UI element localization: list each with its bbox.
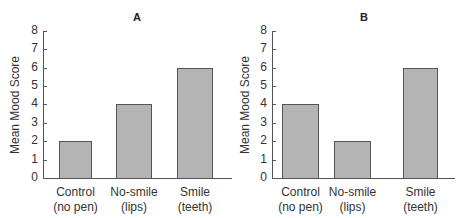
bar bbox=[403, 68, 438, 179]
x-category-label: Smile(teeth) bbox=[386, 185, 456, 215]
y-tick bbox=[272, 178, 276, 179]
y-tick-label: 4 bbox=[253, 96, 267, 110]
bar bbox=[334, 141, 371, 179]
y-tick-label: 7 bbox=[253, 41, 267, 55]
y-tick-label: 2 bbox=[253, 133, 267, 147]
chart-panel-b: BMean Mood Score012345678Control(no pen)… bbox=[0, 0, 233, 218]
y-tick bbox=[272, 49, 276, 50]
y-tick bbox=[272, 160, 276, 161]
y-tick-label: 3 bbox=[253, 115, 267, 129]
y-axis-label: Mean Mood Score bbox=[238, 55, 252, 153]
y-tick bbox=[272, 31, 276, 32]
y-tick-label: 5 bbox=[253, 78, 267, 92]
y-tick-label: 1 bbox=[253, 152, 267, 166]
x-category-label-line2: (lips) bbox=[318, 200, 388, 215]
y-tick-label: 6 bbox=[253, 60, 267, 74]
bar bbox=[282, 104, 319, 179]
y-tick bbox=[272, 68, 276, 69]
y-tick bbox=[272, 123, 276, 124]
y-tick bbox=[272, 86, 276, 87]
y-tick-label: 0 bbox=[253, 170, 267, 184]
x-category-label-line1: No-smile bbox=[318, 185, 388, 200]
x-category-label-line2: (teeth) bbox=[386, 200, 456, 215]
y-tick-label: 8 bbox=[253, 23, 267, 37]
y-tick bbox=[272, 141, 276, 142]
y-tick bbox=[272, 104, 276, 105]
x-category-label: No-smile(lips) bbox=[318, 185, 388, 215]
x-category-label-line1: Smile bbox=[386, 185, 456, 200]
chart-title: B bbox=[360, 11, 368, 23]
